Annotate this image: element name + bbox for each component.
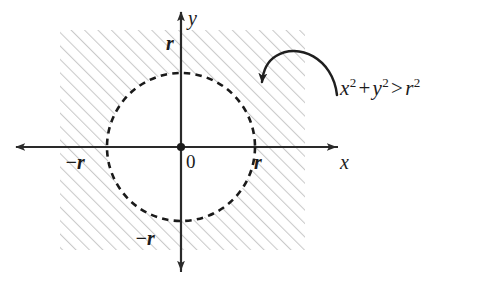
exponent-y: 2 <box>382 75 389 90</box>
origin-point <box>177 143 185 151</box>
y-tick-negative-r: −r <box>135 228 155 248</box>
origin-label: 0 <box>186 152 196 171</box>
x-tick-negative-r: −r <box>65 152 85 172</box>
relation-operator: > <box>389 76 405 100</box>
term-r: r <box>405 76 413 100</box>
inequality-annotation: x2+y2>r2 <box>340 78 420 99</box>
exponent-r: 2 <box>414 75 421 90</box>
plus-operator: + <box>356 76 372 100</box>
term-y: y <box>373 76 383 100</box>
term-x: x <box>340 76 350 100</box>
inequality-diagram: y x r −r −r r 0 x2+y2>r2 <box>0 0 483 288</box>
y-tick-positive-r: r <box>166 33 174 53</box>
y-axis-label: y <box>188 8 197 28</box>
x-axis-label: x <box>340 152 349 172</box>
x-tick-positive-r: r <box>254 152 262 172</box>
diagram-canvas <box>0 0 483 288</box>
